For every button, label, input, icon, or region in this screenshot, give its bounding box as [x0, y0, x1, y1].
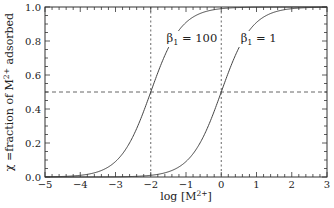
adsorption-chart: β1 = 100β1 = 1 −5−4−3−2−101230.00.20.40.…: [0, 0, 334, 208]
x-tick-label: 3: [324, 179, 330, 190]
x-tick-label: 0: [218, 179, 224, 190]
curve-label: β1 = 1: [241, 31, 277, 47]
y-tick-label: 0.2: [25, 138, 41, 149]
y-tick-label: 0.4: [25, 104, 41, 115]
y-tick-label: 1.0: [25, 2, 41, 13]
x-tick-label: 2: [289, 179, 295, 190]
y-tick-label: 0.8: [25, 36, 41, 47]
curve-labels: β1 = 100β1 = 1: [164, 31, 278, 47]
x-tick-label: −3: [108, 179, 123, 190]
x-axis-title: log [M2+]: [160, 189, 212, 203]
tick-labels: −5−4−3−2−101230.00.20.40.60.81.0: [25, 2, 330, 191]
y-axis-title: χ =fraction of M2+ adsorbed: [2, 13, 16, 171]
x-tick-label: 1: [253, 179, 259, 190]
y-tick-label: 0.6: [25, 70, 41, 81]
x-tick-label: −1: [179, 179, 194, 190]
y-tick-label: 0.0: [25, 172, 41, 183]
x-tick-label: −2: [143, 179, 158, 190]
x-tick-label: −4: [73, 179, 88, 190]
